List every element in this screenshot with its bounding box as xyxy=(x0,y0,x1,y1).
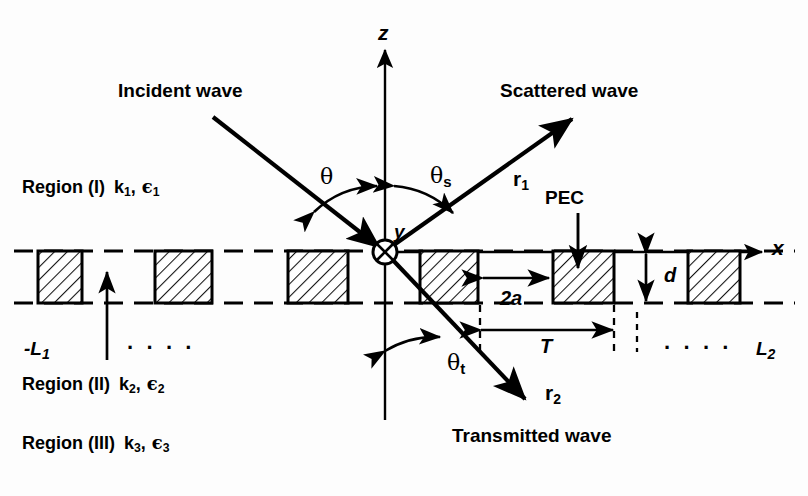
pec-strip xyxy=(688,251,740,303)
region-2-eps-sub: 2 xyxy=(158,382,165,396)
region-1-label: Region (I)k1,ϵ1 xyxy=(22,178,160,199)
axis-x-label: x xyxy=(772,237,784,258)
period-label-T: T xyxy=(540,336,552,356)
theta-s-sub: s xyxy=(443,173,451,190)
transmitted-wave-label: Transmitted wave xyxy=(452,426,611,445)
region-2-name: Region (II) xyxy=(22,374,110,394)
pec-strip xyxy=(288,251,348,303)
region-1-k-sub: 1 xyxy=(124,185,131,199)
axis-y-label: y xyxy=(394,222,405,241)
region-2-k: k xyxy=(119,374,129,394)
region-1-eps-sub: 1 xyxy=(153,185,160,199)
region-3-eps: ϵ xyxy=(152,432,163,453)
pec-strip xyxy=(155,251,212,303)
theta-s-base: θ xyxy=(430,163,443,188)
incident-ray xyxy=(213,117,379,247)
axis-z-label: z xyxy=(378,22,389,43)
pec-strip xyxy=(553,251,614,303)
scattering-geometry-figure: z x y Incident wave Scattered wave Trans… xyxy=(0,0,808,496)
region-3-name: Region (III) xyxy=(22,433,115,453)
theta-t-base: θ xyxy=(447,350,460,375)
region-3-comma: , xyxy=(141,433,146,453)
region-1-comma: , xyxy=(131,177,136,197)
theta-label: θ xyxy=(320,166,333,188)
left-extent-sub: 1 xyxy=(42,346,50,362)
ray-r1-base: r xyxy=(513,167,521,190)
ellipsis-left: · · · · xyxy=(127,337,196,359)
right-extent-base: L xyxy=(756,338,768,359)
region-1-eps: ϵ xyxy=(142,176,153,197)
region-1-k: k xyxy=(114,177,124,197)
theta-t-sub: t xyxy=(460,360,465,377)
theta-s-label: θs xyxy=(430,165,452,189)
left-extent-label: -L1 xyxy=(24,339,50,361)
ray-r2-sub: 2 xyxy=(553,391,561,407)
right-extent-sub: 2 xyxy=(768,346,776,362)
theta-arc xyxy=(314,186,377,212)
pec-label: PEC xyxy=(545,188,584,207)
ray-r2-label: r2 xyxy=(545,382,561,406)
ellipsis-right: · · · · xyxy=(664,337,733,359)
scattered-ray xyxy=(391,119,572,247)
left-extent-base: -L xyxy=(24,338,42,359)
thickness-label-d: d xyxy=(664,265,676,285)
region-1-name: Region (I) xyxy=(22,177,105,197)
ray-r1-sub: 1 xyxy=(521,177,529,193)
region-3-k: k xyxy=(124,433,134,453)
pec-strip xyxy=(38,251,82,303)
scattered-wave-label: Scattered wave xyxy=(500,81,638,100)
right-extent-label: L2 xyxy=(756,339,775,361)
region-3-label: Region (III)k3,ϵ3 xyxy=(22,434,170,455)
theta-t-arc xyxy=(385,337,440,351)
region-3-eps-sub: 3 xyxy=(163,441,170,455)
region-2-eps: ϵ xyxy=(147,373,158,394)
region-2-label: Region (II)k2,ϵ2 xyxy=(22,375,165,396)
ray-r1-label: r1 xyxy=(513,168,529,192)
region-3-k-sub: 3 xyxy=(134,441,141,455)
incident-wave-label: Incident wave xyxy=(118,81,243,100)
figure-canvas xyxy=(0,0,808,496)
gap-label-2a: 2a xyxy=(500,288,522,308)
origin-y-axis-marker xyxy=(373,240,397,264)
ray-r2-base: r xyxy=(545,381,553,404)
region-2-comma: , xyxy=(136,374,141,394)
theta-t-label: θt xyxy=(447,352,465,376)
region-2-k-sub: 2 xyxy=(129,382,136,396)
